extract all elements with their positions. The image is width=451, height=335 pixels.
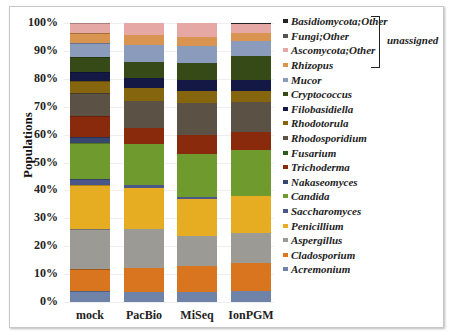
bar-segment	[124, 128, 164, 144]
bar-segment	[177, 154, 217, 197]
legend-label: Cryptococcus	[291, 88, 352, 100]
bar-segment	[177, 292, 217, 302]
bar-segment	[70, 23, 110, 33]
bar-segment	[177, 266, 217, 292]
legend-swatch-icon	[283, 121, 288, 125]
y-tick-label: 40%	[28, 182, 58, 197]
legend-label: Ascomycota;Other	[291, 44, 375, 56]
legend-label: Acremonium	[291, 263, 350, 275]
legend-item: Cladosporium	[283, 248, 388, 263]
bar-segment	[70, 185, 110, 230]
legend-item: Mucor	[283, 72, 388, 87]
bar-segment	[231, 132, 271, 150]
x-tick-label: IonPGM	[221, 308, 281, 323]
legend-item: Aspergillus	[283, 233, 388, 248]
y-tick-label: 50%	[28, 155, 58, 170]
y-tick-label: 90%	[28, 43, 58, 58]
bar-pacbio	[124, 23, 164, 302]
legend-item: Saccharomyces	[283, 204, 388, 219]
y-tick-label: 20%	[28, 238, 58, 253]
legend-swatch-icon	[283, 224, 288, 228]
bar-segment	[124, 35, 164, 45]
bar-segment	[177, 236, 217, 266]
bar-segment	[70, 57, 110, 72]
legend-item: Nakaseomyces	[283, 175, 388, 190]
bar-segment	[70, 291, 110, 302]
bar-segment	[231, 102, 271, 132]
bar-segment	[70, 43, 110, 57]
bar-segment	[177, 103, 217, 135]
unassigned-label: unassigned	[387, 34, 438, 46]
legend-label: Trichoderma	[291, 161, 350, 173]
bar-segment	[124, 268, 164, 292]
legend-swatch-icon	[283, 151, 288, 155]
gridline	[64, 302, 274, 303]
legend-swatch-icon	[283, 48, 288, 52]
bar-segment	[124, 229, 164, 268]
legend-item: Candida	[283, 189, 388, 204]
y-tick-label: 100%	[28, 15, 58, 30]
bar-segment	[231, 91, 271, 102]
bar-segment	[231, 150, 271, 196]
bar-miseq	[177, 23, 217, 302]
bar-segment	[231, 263, 271, 291]
bar-segment	[70, 33, 110, 43]
bar-segment	[177, 80, 217, 91]
bar-segment	[124, 45, 164, 62]
legend-swatch-icon	[283, 209, 288, 213]
bar-segment	[70, 269, 110, 291]
y-tick-label: 10%	[28, 266, 58, 281]
bar-segment	[231, 196, 271, 233]
legend-item: Rhodotorula	[283, 116, 388, 131]
legend-swatch-icon	[283, 267, 288, 271]
bar-segment	[70, 116, 110, 138]
y-tick-label: 30%	[28, 210, 58, 225]
legend-swatch-icon	[283, 165, 288, 169]
legend-swatch-icon	[283, 78, 288, 82]
legend-label: Rhizopus	[291, 59, 333, 71]
bar-ionpgm	[231, 23, 271, 302]
legend-item: Penicillium	[283, 218, 388, 233]
bar-segment	[177, 37, 217, 46]
legend-item: Trichoderma	[283, 160, 388, 175]
legend-label: Candida	[291, 190, 330, 202]
bar-segment	[124, 144, 164, 185]
unassigned-bracket	[371, 16, 380, 68]
legend-item: Fusarium	[283, 145, 388, 160]
bar-segment	[124, 188, 164, 229]
legend-label: Fusarium	[291, 147, 336, 159]
bar-segment	[70, 93, 110, 116]
legend-label: Nakaseomyces	[291, 176, 358, 188]
bar-segment	[124, 78, 164, 88]
legend-swatch-icon	[283, 136, 288, 140]
bar-segment	[124, 62, 164, 78]
bar-segment	[124, 292, 164, 302]
bar-segment	[124, 101, 164, 128]
y-tick-label: 80%	[28, 71, 58, 86]
bar-segment	[177, 63, 217, 80]
legend-swatch-icon	[283, 34, 288, 38]
legend-item: Cryptococcus	[283, 87, 388, 102]
legend-label: Cladosporium	[291, 249, 355, 261]
bar-segment	[70, 143, 110, 179]
x-tick-label: MiSeq	[167, 308, 227, 323]
legend-swatch-icon	[283, 180, 288, 184]
bar-segment	[231, 41, 271, 56]
legend-label: Fungi;Other	[291, 30, 349, 42]
bar-segment	[177, 46, 217, 63]
bar-segment	[124, 88, 164, 101]
legend-label: Rhodosporidium	[291, 132, 367, 144]
legend-item: Filobasidiella	[283, 102, 388, 117]
legend-label: Aspergillus	[291, 234, 342, 246]
bar-segment	[70, 81, 110, 93]
legend-swatch-icon	[283, 194, 288, 198]
legend-swatch-icon	[283, 238, 288, 242]
bar-segment	[231, 33, 271, 41]
bar-segment	[177, 91, 217, 103]
bar-segment	[231, 233, 271, 263]
y-tick-label: 0%	[28, 294, 58, 309]
legend-swatch-icon	[283, 63, 288, 67]
x-tick-label: mock	[60, 308, 120, 323]
legend-swatch-icon	[283, 19, 288, 23]
legend-label: Penicillium	[291, 220, 344, 232]
